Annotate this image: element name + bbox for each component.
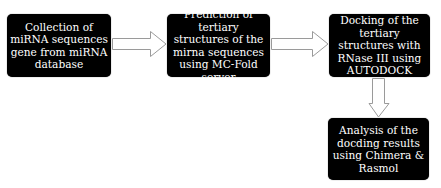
right-arrow-icon: [112, 31, 167, 57]
step-prediction-text: Prediction of tertiary structures of the…: [170, 8, 267, 83]
step-analysis-text: Analysis of the docding results using Ch…: [331, 124, 426, 174]
step-collection-text: Collection of miRNA sequences gene from …: [10, 21, 108, 71]
step-prediction-box: Prediction of tertiary structures of the…: [167, 14, 270, 77]
down-arrow-icon: [368, 78, 390, 118]
step-docking-box: Docking of the tertiary structures with …: [329, 14, 430, 77]
right-arrow-icon: [271, 31, 329, 57]
step-docking-text: Docking of the tertiary structures with …: [332, 14, 427, 77]
step-analysis-box: Analysis of the docding results using Ch…: [328, 118, 429, 180]
step-collection-box: Collection of miRNA sequences gene from …: [7, 14, 111, 77]
